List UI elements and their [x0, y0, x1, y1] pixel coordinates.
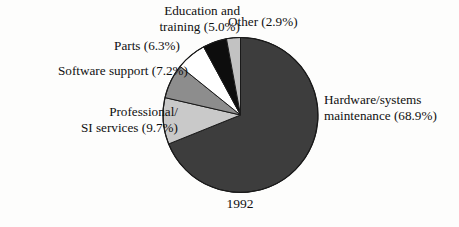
slice-label-hardware-systems-maintenance: Hardware/systems maintenance (68.9%): [324, 92, 459, 123]
slice-label-education-line1: Education and: [108, 3, 240, 19]
slice-label-education-line2: training (5.0%): [108, 19, 240, 35]
slice-label-parts-text: Parts (6.3%): [60, 38, 180, 54]
slice-label-parts: Parts (6.3%): [60, 38, 180, 54]
slice-label-professional-si-services: Professional/ SI services (9.7%): [28, 104, 178, 135]
slice-label-hardware-line2: maintenance (68.9%): [324, 108, 459, 124]
slice-label-hardware-line1: Hardware/systems: [324, 92, 459, 108]
slice-label-professional-line2: SI services (9.7%): [28, 120, 178, 136]
slice-label-other-text: Other (2.9%): [228, 14, 338, 30]
chart-caption-text: 1992: [227, 196, 254, 211]
slice-label-professional-line1: Professional/: [28, 104, 178, 120]
slice-label-software-text: Software support (7.2%): [8, 63, 188, 79]
slice-label-software-support: Software support (7.2%): [8, 63, 188, 79]
slice-label-education-and-training: Education and training (5.0%): [108, 3, 240, 34]
pie-slice-group: [163, 38, 318, 193]
chart-caption-year: 1992: [190, 196, 290, 212]
slice-label-other: Other (2.9%): [228, 14, 338, 30]
pie-chart-figure: Education and training (5.0%) Other (2.9…: [0, 0, 459, 227]
